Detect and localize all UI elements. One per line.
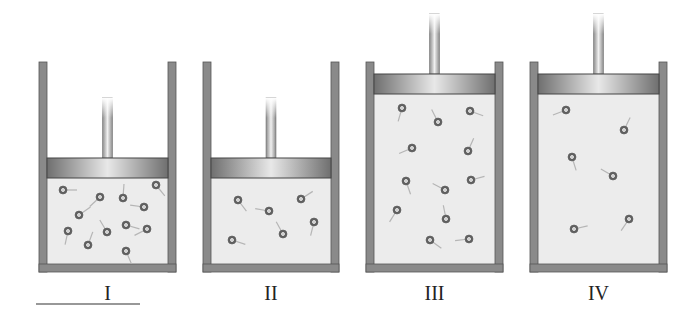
gas-particle — [103, 228, 111, 236]
gas-particle — [152, 181, 160, 189]
gas-particle — [119, 194, 127, 202]
gas-particle — [393, 206, 401, 214]
gas-particle — [466, 107, 474, 115]
rod-fade — [265, 98, 277, 118]
gas-particle — [228, 236, 236, 244]
container-label-iv: IV — [569, 282, 629, 305]
gas-particle — [140, 203, 148, 211]
gas-particle — [562, 106, 570, 114]
gas-particle — [570, 225, 578, 233]
gas-cylinders-diagram — [0, 0, 693, 323]
rod-fade — [593, 14, 605, 34]
gas-particle — [96, 193, 104, 201]
gas-particle — [441, 186, 449, 194]
cylinder-right-wall — [659, 62, 667, 272]
gas-particle — [464, 147, 472, 155]
gas-particle — [465, 235, 473, 243]
gas-particle — [279, 230, 287, 238]
gas-particle — [143, 225, 151, 233]
cylinder-right-wall — [168, 62, 176, 272]
gas-particle — [84, 241, 92, 249]
piston-head — [47, 158, 168, 178]
cylinder-left-wall — [530, 62, 538, 272]
gas-particle — [297, 195, 305, 203]
gas-particle — [620, 126, 628, 134]
gas-particle — [234, 196, 242, 204]
container-label-iii: III — [405, 282, 465, 305]
gas-particle — [310, 218, 318, 226]
gas-particle — [442, 215, 450, 223]
gas-particle — [59, 186, 67, 194]
gas-particle — [265, 207, 273, 215]
piston-head — [538, 74, 659, 94]
cylinder-left-wall — [39, 62, 47, 272]
gas-particle — [402, 177, 410, 185]
gas-particle — [609, 172, 617, 180]
rod-fade — [102, 98, 114, 118]
cylinder-base — [203, 264, 339, 272]
cylinder-left-wall — [203, 62, 211, 272]
gas-particle — [467, 176, 475, 184]
container-label-i: I — [78, 282, 138, 305]
gas-particle — [426, 236, 434, 244]
gas-particle — [64, 227, 72, 235]
gas-particle — [122, 221, 130, 229]
cylinder-left-wall — [366, 62, 374, 272]
gas-particle — [75, 211, 83, 219]
gas-particle — [398, 104, 406, 112]
gas-particle — [568, 153, 576, 161]
gas-particle — [434, 118, 442, 126]
container-label-ii: II — [241, 282, 301, 305]
cylinder-base — [366, 264, 503, 272]
cylinder-right-wall — [331, 62, 339, 272]
cylinder-base — [530, 264, 667, 272]
gas-region — [538, 94, 659, 264]
gas-particle — [625, 215, 633, 223]
cylinder-right-wall — [495, 62, 503, 272]
cylinder-base — [39, 264, 176, 272]
rod-fade — [429, 14, 441, 34]
piston-head — [374, 74, 495, 94]
gas-particle — [408, 144, 416, 152]
gas-particle — [122, 247, 130, 255]
piston-head — [211, 158, 331, 178]
